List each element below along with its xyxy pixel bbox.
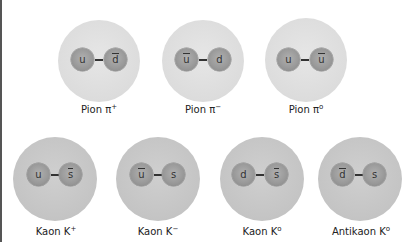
- meson-name: Kaon K: [36, 226, 71, 237]
- gluon-bond: [301, 59, 309, 61]
- antiquark-label: u: [183, 55, 189, 65]
- quark-label: s: [372, 170, 377, 180]
- charge-superscript: o: [386, 225, 390, 233]
- charge-superscript: −: [215, 103, 221, 111]
- charge-superscript: −: [172, 225, 178, 233]
- gluon-bond: [95, 59, 103, 61]
- left-border: [0, 0, 2, 242]
- antiquark-sphere: u: [130, 163, 153, 186]
- kaon-cloud: [13, 137, 97, 221]
- quark-label: s: [171, 170, 176, 180]
- antiquark-label: d: [112, 55, 118, 65]
- antiquark-label: u: [138, 170, 144, 180]
- meson-label: Pion π+: [81, 104, 117, 115]
- antiquark-label: s: [274, 170, 279, 180]
- gluon-bond: [355, 174, 363, 176]
- antiquark-sphere: s: [265, 163, 288, 186]
- quark-label: d: [216, 55, 222, 65]
- antiquark-label: d: [339, 170, 345, 180]
- antiquark-sphere: d: [331, 163, 354, 186]
- meson-label: Pion π−: [185, 104, 221, 115]
- gluon-bond: [199, 59, 207, 61]
- quark-label: u: [285, 55, 291, 65]
- meson-label: Kaon K+: [36, 226, 77, 237]
- charge-superscript: o: [277, 225, 281, 233]
- quark-label: u: [35, 170, 41, 180]
- antiquark-label: u: [318, 55, 324, 65]
- quark-sphere: d: [232, 163, 255, 186]
- antiquark-sphere: u: [175, 48, 198, 71]
- kaon-cloud: [318, 137, 402, 221]
- charge-superscript: o: [319, 103, 323, 111]
- meson-name: Pion π: [185, 104, 215, 115]
- meson-label: Pion πo: [289, 104, 324, 115]
- quark-sphere: u: [277, 48, 300, 71]
- quark-label: u: [79, 55, 85, 65]
- quark-sphere: s: [162, 163, 185, 186]
- charge-superscript: +: [70, 225, 76, 233]
- gluon-bond: [154, 174, 162, 176]
- quark-sphere: d: [208, 48, 231, 71]
- meson-name: Kaon K: [138, 226, 173, 237]
- kaon-cloud: [116, 137, 200, 221]
- meson-name: Pion π: [81, 104, 111, 115]
- antiquark-sphere: s: [59, 163, 82, 186]
- antiquark-sphere: d: [104, 48, 127, 71]
- meson-label: Kaon K−: [138, 226, 179, 237]
- meson-label: Kaon Ko: [243, 226, 282, 237]
- quark-sphere: s: [363, 163, 386, 186]
- meson-name: Pion π: [289, 104, 319, 115]
- antiquark-sphere: u: [310, 48, 333, 71]
- meson-name: Kaon K: [243, 226, 278, 237]
- quark-label: d: [240, 170, 246, 180]
- gluon-bond: [256, 174, 264, 176]
- meson-label: Antikaon Ko: [332, 226, 390, 237]
- antiquark-label: s: [68, 170, 73, 180]
- meson-name: Antikaon K: [332, 226, 386, 237]
- quark-sphere: u: [71, 48, 94, 71]
- charge-superscript: +: [111, 103, 117, 111]
- quark-sphere: u: [27, 163, 50, 186]
- gluon-bond: [51, 174, 59, 176]
